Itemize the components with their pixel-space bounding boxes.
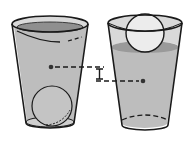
bracket-icon xyxy=(96,69,103,79)
left-cup-ball xyxy=(32,86,72,126)
right-cup-ball xyxy=(126,14,164,52)
cups-diagram xyxy=(0,0,193,145)
left-cup xyxy=(12,16,88,128)
left-cup-center-dot xyxy=(49,65,54,70)
diagram-canvas xyxy=(0,0,193,145)
right-cup-center-dot xyxy=(141,79,146,84)
right-cup xyxy=(108,14,182,130)
